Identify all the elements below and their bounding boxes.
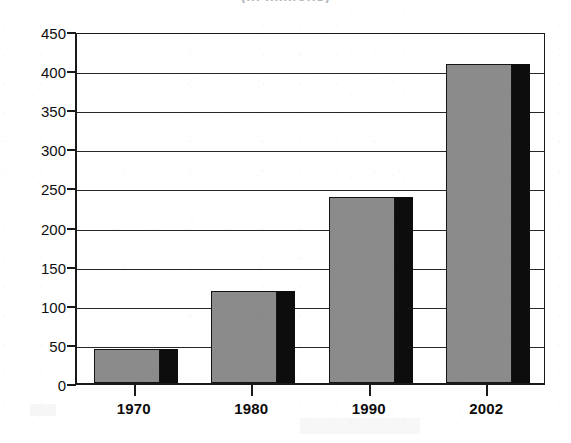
x-axis-category-label-1970: 1970 (74, 400, 194, 417)
x-axis-category-label-1980: 1980 (191, 400, 311, 417)
y-axis-tick-label-450: 450 (6, 26, 66, 41)
x-axis-tick-mark-1990 (369, 385, 371, 396)
scan-smudge-left (30, 404, 56, 416)
bar-side-2002 (512, 64, 530, 383)
bar-face-1990 (329, 197, 395, 383)
bar-1980 (211, 291, 295, 383)
x-axis-tick-mark-2002 (486, 385, 488, 396)
bar-chart-figure: (in millions) 05010015020025030035040045… (0, 0, 571, 443)
x-axis-tick-mark-1970 (134, 385, 136, 396)
bar-side-1990 (395, 197, 413, 383)
y-axis-tick-label-0: 0 (6, 378, 66, 393)
x-axis-tick-mark-1980 (251, 385, 253, 396)
y-axis-tick-label-200: 200 (6, 221, 66, 236)
bar-face-1970 (94, 349, 160, 383)
chart-title: (in millions) (0, 0, 571, 3)
bar-2002 (446, 64, 530, 383)
bar-side-1970 (160, 349, 178, 383)
y-axis-tick-label-250: 250 (6, 182, 66, 197)
y-axis-tick-label-350: 350 (6, 104, 66, 119)
bar-side-1980 (277, 291, 295, 383)
bar-face-1980 (211, 291, 277, 383)
plot-area (75, 33, 545, 385)
bar-1970 (94, 349, 178, 383)
bar-1990 (329, 197, 413, 383)
bar-face-2002 (446, 64, 512, 383)
y-axis-tick-label-300: 300 (6, 143, 66, 158)
scan-smudge-bottom (300, 418, 420, 434)
x-axis-category-label-1990: 1990 (309, 400, 429, 417)
y-axis-tick-label-50: 50 (6, 338, 66, 353)
y-axis-tick-label-100: 100 (6, 299, 66, 314)
y-axis-tick-label-400: 400 (6, 65, 66, 80)
y-axis-tick-label-150: 150 (6, 260, 66, 275)
x-axis-category-label-2002: 2002 (426, 400, 546, 417)
